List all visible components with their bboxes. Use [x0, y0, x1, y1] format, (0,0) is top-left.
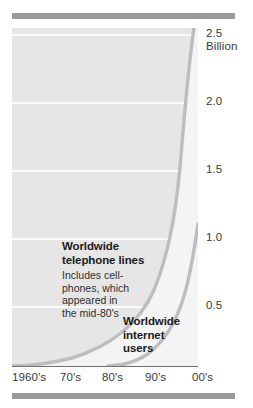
- annotation-internet-head-line3: users: [123, 342, 180, 356]
- y-tick-2.0-value: 2.0: [206, 95, 222, 107]
- y-tick-1.0-value: 1.0: [206, 231, 222, 243]
- x-tick-80s: 80's: [102, 371, 123, 383]
- annotation-internet-users: Worldwide internet users: [123, 315, 180, 356]
- x-tick-1960s: 1960's: [12, 371, 46, 383]
- bottom-rule: [12, 393, 235, 399]
- y-tick-0.5-value: 0.5: [206, 299, 222, 311]
- x-tick-70s: 70's: [60, 371, 81, 383]
- y-tick-2.5: 2.5 Billion: [206, 27, 237, 53]
- y-tick-0.5: 0.5: [206, 299, 222, 312]
- annotation-telephone-sub-line3: appeared in: [62, 294, 144, 307]
- y-tick-2.5-value: 2.5: [206, 27, 222, 39]
- top-rule: [12, 13, 235, 19]
- annotation-telephone-lines: Worldwide telephone lines Includes cell-…: [62, 240, 144, 319]
- annotation-telephone-head-line1: Worldwide: [62, 240, 144, 254]
- y-tick-2.0: 2.0: [206, 95, 222, 108]
- annotation-internet-head-line1: Worldwide: [123, 315, 180, 329]
- annotation-telephone-sub-line2: phones, which: [62, 282, 144, 295]
- x-axis-line: [12, 366, 198, 367]
- annotation-telephone-head-line2: telephone lines: [62, 254, 144, 268]
- plot-area: Worldwide telephone lines Includes cell-…: [12, 28, 198, 366]
- x-tick-00s: 00's: [192, 371, 213, 383]
- annotation-internet-head-line2: internet: [123, 329, 180, 343]
- annotation-telephone-sub-line1: Includes cell-: [62, 269, 144, 282]
- chart-figure: Worldwide telephone lines Includes cell-…: [0, 0, 253, 408]
- x-tick-90s: 90's: [145, 371, 166, 383]
- y-tick-1.5: 1.5: [206, 163, 222, 176]
- y-tick-1.0: 1.0: [206, 231, 222, 244]
- y-axis-unit-label: Billion: [206, 40, 237, 53]
- y-tick-1.5-value: 1.5: [206, 163, 222, 175]
